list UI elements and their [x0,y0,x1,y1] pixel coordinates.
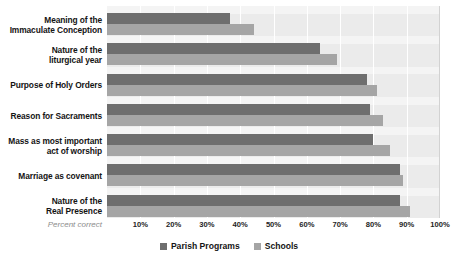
x-axis-tick-label: 10% [133,220,148,229]
category-label: Reason for Sacraments [0,111,102,121]
bar-schools [107,54,337,65]
category-label-line: Marriage as covenant [0,171,102,181]
category-label: Nature of theReal Presence [0,196,102,216]
legend-label: Schools [265,241,298,251]
category-label: Purpose of Holy Orders [0,80,102,90]
x-axis-ticks: 10%20%30%40%50%60%70%80%90%100% [107,220,440,232]
legend-label: Parish Programs [171,241,240,251]
x-axis-tick-label: 70% [332,220,347,229]
bar-parish-programs [107,164,400,175]
x-axis-tick-label: 40% [233,220,248,229]
bar-parish-programs [107,195,400,206]
legend-item[interactable]: Parish Programs [160,241,240,251]
bar-schools [107,85,377,96]
category-label-line: Nature of the [0,196,102,206]
category-label: Meaning of theImmaculate Conception [0,15,102,35]
bar-schools [107,206,410,217]
gridline [407,6,408,218]
x-axis-tick-label: 30% [199,220,214,229]
plot-area [107,6,440,218]
category-label-line: Real Presence [0,206,102,216]
x-axis-tick-label: 60% [299,220,314,229]
category-label-line: liturgical year [0,55,102,65]
plot-right-border [439,6,440,218]
bar-chart: Meaning of theImmaculate ConceptionNatur… [0,0,458,263]
bar-schools [107,115,383,126]
bar-schools [107,24,254,35]
bar-parish-programs [107,43,320,54]
category-label: Mass as most importantact of worship [0,136,102,156]
category-label: Marriage as covenant [0,171,102,181]
legend-swatch-icon [254,243,261,250]
bar-schools [107,145,390,156]
chart-legend: Parish ProgramsSchools [0,241,458,251]
category-label-line: Reason for Sacraments [0,111,102,121]
category-axis-labels: Meaning of theImmaculate ConceptionNatur… [0,6,102,218]
x-axis-tick-label: 90% [399,220,414,229]
category-label-line: Meaning of the [0,15,102,25]
x-axis-tick-label: 50% [266,220,281,229]
category-label: Nature of theliturgical year [0,45,102,65]
x-axis-tick-label: 80% [366,220,381,229]
x-axis-tick-label: 100% [430,220,449,229]
category-label-line: Mass as most important [0,136,102,146]
legend-item[interactable]: Schools [254,241,298,251]
category-label-line: act of worship [0,146,102,156]
bar-parish-programs [107,74,367,85]
bar-parish-programs [107,13,230,24]
x-axis-tick-label: 20% [166,220,181,229]
legend-swatch-icon [160,243,167,250]
x-axis-caption: Percent correct [0,220,102,229]
bar-schools [107,175,403,186]
category-label-line: Nature of the [0,45,102,55]
plot-inner [107,6,440,218]
category-label-line: Purpose of Holy Orders [0,80,102,90]
category-label-line: Immaculate Conception [0,25,102,35]
bar-parish-programs [107,104,370,115]
bar-parish-programs [107,134,373,145]
